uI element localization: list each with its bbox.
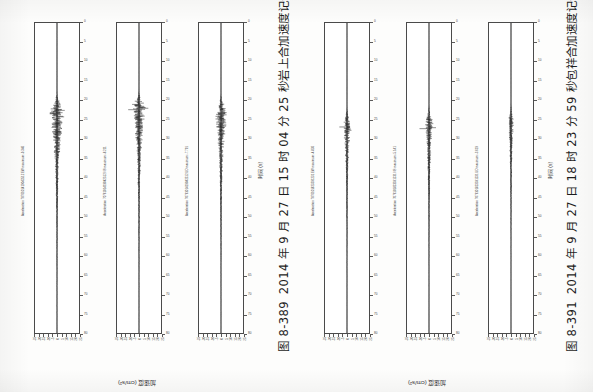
time-tick xyxy=(162,198,165,199)
time-tick xyxy=(452,217,455,218)
amplitude-tick xyxy=(511,334,512,337)
plot-box xyxy=(406,22,452,334)
time-tick xyxy=(244,22,247,23)
time-tick-label: 75 xyxy=(84,313,87,316)
time-tick-label: 70 xyxy=(84,293,87,296)
time-tick xyxy=(162,217,165,218)
plot-panel: Acceleration 7076101419042512 EW maximum… xyxy=(20,22,96,340)
time-tick-label: 30 xyxy=(374,137,377,140)
time-tick-label: 50 xyxy=(166,215,169,218)
figure-caption: 图 8-3892014 年 9 月 27 日 15 时 04 分 25 秒岩上合… xyxy=(278,0,290,352)
time-tick-label: 10 xyxy=(248,59,251,62)
panel-title: Acceleration 7076101419042512 EW maximum… xyxy=(22,146,25,216)
time-tick-label: 30 xyxy=(166,137,169,140)
time-tick-label: 15 xyxy=(248,79,251,82)
waveform-trace xyxy=(325,23,369,333)
time-tick xyxy=(80,217,83,218)
time-tick xyxy=(370,120,373,121)
amplitude-tick-label: -25 xyxy=(116,337,119,341)
time-tick xyxy=(370,22,373,23)
time-tick-label: 75 xyxy=(538,313,541,316)
plot-box xyxy=(34,22,80,334)
plot-box xyxy=(324,22,370,334)
time-tick-label: 40 xyxy=(84,176,87,179)
amplitude-axis: -25-20-15-10-50510152025 xyxy=(324,334,370,356)
amplitude-tick-label: 0 xyxy=(57,338,60,340)
time-axis-title: 时间 (s) xyxy=(548,162,553,179)
time-tick xyxy=(370,100,373,101)
waveform-trace xyxy=(117,23,161,333)
time-tick-label: 60 xyxy=(166,254,169,257)
time-tick-label: 75 xyxy=(456,313,459,316)
time-tick xyxy=(80,237,83,238)
plot-box xyxy=(116,22,162,334)
time-tick-label: 45 xyxy=(166,196,169,199)
figure-number: 图 8-391 xyxy=(565,301,579,352)
time-tick-label: 45 xyxy=(84,196,87,199)
time-tick-label: 40 xyxy=(248,176,251,179)
amplitude-tick-label: -15 xyxy=(125,337,128,341)
amplitude-tick-label: -15 xyxy=(207,337,210,341)
time-tick xyxy=(534,42,537,43)
amplitude-tick xyxy=(434,334,435,337)
time-tick-label: 0 xyxy=(538,20,540,23)
time-tick-label: 60 xyxy=(538,254,541,257)
plot-box xyxy=(488,22,534,334)
amplitude-tick-label: 25 xyxy=(534,337,537,340)
time-tick-label: 40 xyxy=(456,176,459,179)
time-tick xyxy=(80,276,83,277)
amplitude-tick xyxy=(221,334,222,337)
amplitude-tick-label: -15 xyxy=(43,337,46,341)
time-tick-label: 50 xyxy=(248,215,251,218)
time-tick xyxy=(534,100,537,101)
time-tick-label: 20 xyxy=(538,98,541,101)
time-tick xyxy=(452,256,455,257)
time-tick xyxy=(244,42,247,43)
time-tick xyxy=(370,198,373,199)
time-tick xyxy=(452,61,455,62)
time-tick xyxy=(80,159,83,160)
time-tick xyxy=(452,139,455,140)
time-tick xyxy=(534,81,537,82)
plot-panel: Acceleration 7076101823591231 EW maximum… xyxy=(310,22,386,340)
time-tick-label: 55 xyxy=(248,235,251,238)
time-tick xyxy=(370,295,373,296)
time-tick xyxy=(452,81,455,82)
time-tick-label: 50 xyxy=(84,215,87,218)
time-tick xyxy=(452,22,455,23)
figure-8-389: Acceleration 7076101419042512 EW maximum… xyxy=(6,0,298,392)
waveform-trace xyxy=(407,23,451,333)
time-tick-label: 20 xyxy=(456,98,459,101)
amplitude-tick-label: 10 xyxy=(438,337,441,340)
time-tick xyxy=(80,42,83,43)
time-axis: 05101520253035404550556065707580 xyxy=(162,22,178,334)
time-tick-label: 60 xyxy=(456,254,459,257)
time-tick-label: 5 xyxy=(538,40,540,43)
time-tick xyxy=(244,100,247,101)
amplitude-tick-label: -25 xyxy=(488,337,491,341)
amplitude-tick-label: 10 xyxy=(356,337,359,340)
amplitude-tick-label: -15 xyxy=(415,337,418,341)
time-tick-label: 50 xyxy=(374,215,377,218)
time-tick-label: 50 xyxy=(538,215,541,218)
time-tick xyxy=(80,295,83,296)
time-tick-label: 75 xyxy=(374,313,377,316)
time-tick xyxy=(244,159,247,160)
time-tick-label: 30 xyxy=(538,137,541,140)
time-tick xyxy=(370,139,373,140)
time-tick xyxy=(534,22,537,23)
time-tick xyxy=(162,22,165,23)
time-tick xyxy=(370,61,373,62)
time-tick-label: 15 xyxy=(84,79,87,82)
time-tick xyxy=(534,61,537,62)
amplitude-tick-label: 10 xyxy=(66,337,69,340)
time-tick-label: 30 xyxy=(84,137,87,140)
time-tick-label: 60 xyxy=(84,254,87,257)
amplitude-tick-label: 0 xyxy=(429,338,432,340)
time-tick-label: 30 xyxy=(456,137,459,140)
time-tick xyxy=(244,217,247,218)
time-tick-label: 25 xyxy=(248,118,251,121)
time-tick xyxy=(162,120,165,121)
amplitude-axis: -25-20-15-10-50510152025 xyxy=(116,334,162,356)
amplitude-axis: -25-20-15-10-50510152025 xyxy=(34,334,80,356)
